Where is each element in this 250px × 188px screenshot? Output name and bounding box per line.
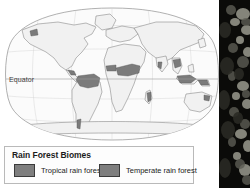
legend-label-tropical: Tropical rain forest <box>41 166 103 175</box>
world-map-graphic <box>0 0 224 148</box>
legend-entry-temperate: Temperate rain forest <box>99 164 197 177</box>
world-map: Equator <box>0 0 224 148</box>
shade-australia-ne <box>204 95 210 101</box>
equator-label: Equator <box>9 76 34 83</box>
legend-label-temperate: Temperate rain forest <box>126 166 197 175</box>
shade-west-africa <box>106 65 116 71</box>
legend-swatch-temperate <box>99 164 120 177</box>
rain-forest-biomes-figure: Equator <box>0 0 250 188</box>
legend-title: Rain Forest Biomes <box>12 150 91 160</box>
legend-swatch-tropical <box>14 164 35 177</box>
legend-entry-tropical: Tropical rain forest <box>14 164 103 177</box>
rain-forest-photo-graphic <box>219 0 250 188</box>
map-legend: Rain Forest Biomes Tropical rain forest … <box>4 146 194 184</box>
rain-forest-photo <box>219 0 250 188</box>
